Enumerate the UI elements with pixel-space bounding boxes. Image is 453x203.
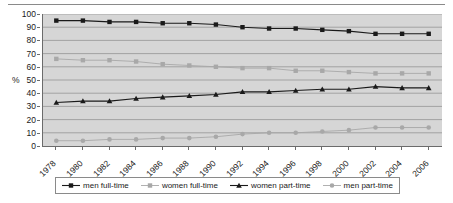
y-axis-tick-label: 70	[27, 50, 36, 58]
y-axis-tick-mark	[37, 133, 40, 134]
data-point-marker	[187, 136, 192, 141]
data-point-marker	[427, 32, 431, 36]
data-point-marker	[400, 71, 404, 75]
y-axis-tick-label: 40	[27, 89, 36, 97]
data-point-marker	[347, 128, 352, 133]
data-point-marker	[54, 57, 58, 61]
y-axis: 1009080706050403020100	[0, 8, 40, 152]
x-axis-tick-mark	[215, 147, 216, 150]
y-axis-tick-mark	[37, 67, 40, 68]
data-point-marker	[320, 28, 324, 32]
data-point-marker	[329, 183, 334, 188]
y-axis-tick-mark	[37, 54, 40, 55]
data-point-marker	[161, 21, 165, 25]
data-point-marker	[214, 22, 218, 26]
data-point-marker	[81, 58, 85, 62]
x-axis-tick-label: 2002	[357, 158, 377, 178]
legend-item-men-part-time[interactable]: men part-time	[323, 181, 393, 190]
data-point-marker	[267, 66, 271, 70]
x-axis-tick-label: 1990	[197, 158, 217, 178]
x-axis-tick-label: 1978	[37, 158, 57, 178]
y-axis-tick-mark	[37, 146, 40, 147]
x-axis-tick-mark	[242, 147, 243, 150]
y-axis-tick-mark	[37, 27, 40, 28]
legend-label: men full-time	[83, 181, 129, 190]
x-axis-tick-mark	[348, 147, 349, 150]
y-axis-tick-mark	[37, 14, 40, 15]
x-axis-tick-label: 1996	[277, 158, 297, 178]
data-point-marker	[347, 29, 351, 33]
legend-item-women-full-time[interactable]: women full-time	[141, 181, 218, 190]
x-axis-tick-label: 1988	[170, 158, 190, 178]
y-axis-tick-label: 20	[27, 116, 36, 124]
data-point-marker	[187, 21, 191, 25]
data-point-marker	[320, 69, 324, 73]
plot-canvas	[43, 14, 442, 146]
y-axis-tick-label: 50	[27, 76, 36, 84]
y-axis-tick-label: 30	[27, 102, 36, 110]
x-axis-tick-mark	[188, 147, 189, 150]
data-point-marker	[81, 138, 86, 143]
data-point-marker	[148, 183, 152, 187]
data-point-marker	[267, 131, 272, 136]
data-point-marker	[107, 20, 111, 24]
data-point-marker	[400, 32, 404, 36]
data-point-marker	[134, 137, 139, 142]
y-axis-tick-label: 0	[31, 142, 36, 150]
data-point-marker	[107, 58, 111, 62]
data-point-marker	[427, 71, 431, 75]
data-point-marker	[161, 62, 165, 66]
data-point-marker	[54, 138, 59, 143]
y-axis-tick-label: 100	[22, 10, 36, 18]
x-axis-tick-mark	[109, 147, 110, 150]
data-point-marker	[294, 26, 298, 30]
data-point-marker	[134, 59, 138, 63]
data-point-marker	[240, 25, 244, 29]
y-axis-tick-mark	[37, 93, 40, 94]
legend-marker-icon	[141, 181, 159, 190]
x-axis-tick-label: 1994	[250, 158, 270, 178]
chart-legend: men full-timewomen full-timewomen part-t…	[55, 177, 400, 194]
y-axis-tick-mark	[37, 80, 40, 81]
x-axis-tick-mark	[295, 147, 296, 150]
x-axis-tick-mark	[321, 147, 322, 150]
x-axis-tick-label: 2006	[410, 158, 430, 178]
legend-label: men part-time	[344, 181, 393, 190]
legend-item-men-full-time[interactable]: men full-time	[62, 181, 129, 190]
x-axis-tick-label: 1984	[117, 158, 137, 178]
x-axis-tick-label: 2000	[330, 158, 350, 178]
data-point-marker	[293, 131, 298, 136]
y-axis-tick-label: 80	[27, 36, 36, 44]
x-axis-tick-mark	[401, 147, 402, 150]
x-axis-tick-label: 1992	[224, 158, 244, 178]
y-axis-tick-label: 60	[27, 63, 36, 71]
data-point-marker	[69, 183, 73, 187]
data-point-marker	[294, 69, 298, 73]
legend-marker-icon	[323, 181, 341, 190]
data-point-marker	[240, 132, 245, 137]
legend-marker-icon	[62, 181, 80, 190]
data-point-marker	[373, 71, 377, 75]
data-point-marker	[107, 137, 112, 142]
data-point-marker	[373, 32, 377, 36]
x-axis-tick-mark	[375, 147, 376, 150]
data-point-marker	[134, 20, 138, 24]
x-axis-tick-label: 2004	[383, 158, 403, 178]
data-point-marker	[426, 125, 431, 130]
legend-item-women-part-time[interactable]: women part-time	[230, 181, 311, 190]
plot-area	[42, 14, 442, 147]
y-axis-tick-mark	[37, 120, 40, 121]
x-axis-tick-label: 1986	[144, 158, 164, 178]
y-axis-tick-mark	[37, 106, 40, 107]
data-point-marker	[81, 18, 85, 22]
data-point-marker	[187, 63, 191, 67]
series-line-women-part-time	[56, 87, 428, 103]
y-axis-tick-label: 10	[27, 129, 36, 137]
data-point-marker	[54, 18, 58, 22]
data-point-marker	[240, 66, 244, 70]
x-axis-tick-mark	[55, 147, 56, 150]
y-axis-title: %	[12, 75, 20, 85]
x-axis-tick-mark	[428, 147, 429, 150]
x-axis-tick-label: 1980	[64, 158, 84, 178]
data-point-marker	[400, 125, 405, 130]
